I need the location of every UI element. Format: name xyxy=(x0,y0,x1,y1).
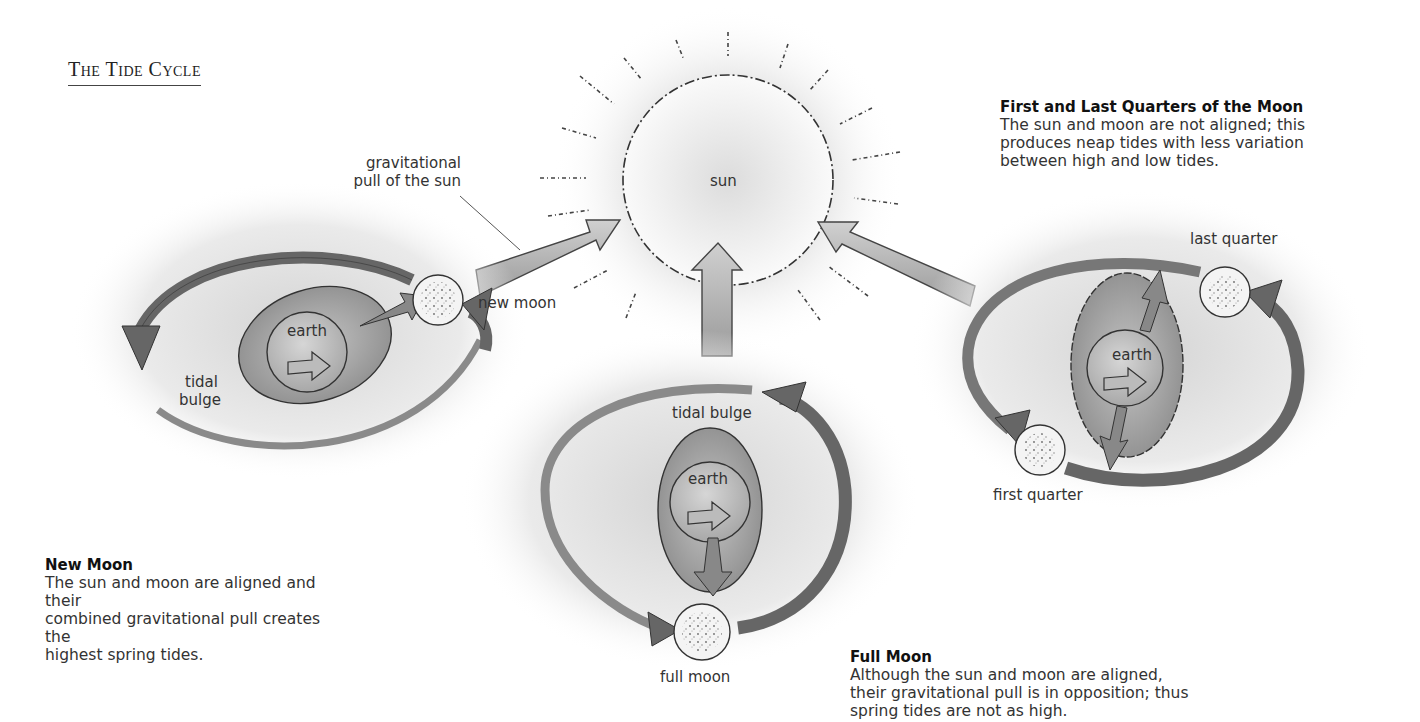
earth-icon xyxy=(1087,330,1163,406)
sun-label: sun xyxy=(710,172,737,190)
tidal-bulge-label-full: tidal bulge xyxy=(672,404,752,422)
tidal-bulge-label-new-line2: bulge xyxy=(179,391,221,409)
last-quarter-label: last quarter xyxy=(1190,230,1278,248)
new-moon-description: New Moon The sun and moon are aligned an… xyxy=(45,556,345,664)
new-moon-heading: New Moon xyxy=(45,556,345,574)
quarters-heading: First and Last Quarters of the Moon xyxy=(1000,98,1320,116)
earth-label-quarter: earth xyxy=(1112,346,1152,364)
gravitational-pull-label-line2: pull of the sun xyxy=(345,172,461,190)
first-quarter-label: first quarter xyxy=(993,486,1083,504)
new-moon-label: new moon xyxy=(478,294,556,312)
full-moon-system xyxy=(460,330,920,670)
full-moon-heading: Full Moon xyxy=(850,648,1210,666)
tidal-bulge-label-new-line1: tidal xyxy=(185,373,218,391)
quarters-description: First and Last Quarters of the Moon The … xyxy=(1000,98,1320,170)
earth-label-new: earth xyxy=(287,322,327,340)
full-moon-label: full moon xyxy=(660,668,730,686)
full-moon-description: Full Moon Although the sun and moon are … xyxy=(850,648,1210,720)
gravitational-pull-label-line1: gravitational xyxy=(365,154,461,172)
earth-label-full: earth xyxy=(688,470,728,488)
